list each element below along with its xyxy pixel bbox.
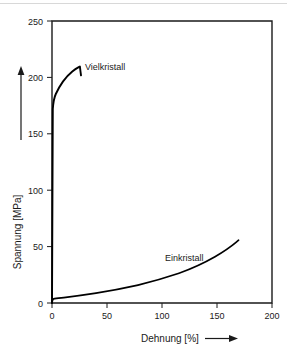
y-tick-label-200: 200 [28, 73, 43, 83]
x-axis-direction-arrow-icon [205, 335, 238, 342]
y-axis-tick-labels: 0 50 100 150 200 250 [28, 17, 43, 309]
y-tick-label-50: 50 [33, 242, 43, 252]
y-axis-title: Spannung [MPa] [12, 195, 23, 270]
y-tick-label-100: 100 [28, 186, 43, 196]
x-axis-ticks [52, 303, 272, 308]
x-tick-label-200: 200 [264, 311, 279, 321]
y-tick-label-0: 0 [38, 299, 43, 309]
x-tick-label-0: 0 [49, 311, 54, 321]
x-axis-title: Dehnung [%] [141, 333, 199, 344]
series-curve-vielkristall [52, 67, 81, 304]
x-tick-label-150: 150 [209, 311, 224, 321]
stress-strain-chart: 0 50 100 150 200 250 0 50 100 150 200 [0, 0, 287, 355]
figure-container: 0 50 100 150 200 250 0 50 100 150 200 [0, 0, 287, 355]
y-tick-label-150: 150 [28, 129, 43, 139]
y-tick-label-250: 250 [28, 17, 43, 27]
x-axis-tick-labels: 0 50 100 150 200 [49, 311, 279, 321]
x-tick-label-100: 100 [154, 311, 169, 321]
series-label-einkristall: Einkristall [165, 253, 204, 263]
x-tick-label-50: 50 [102, 311, 112, 321]
series-label-vielkristall: Vielkristall [85, 62, 125, 72]
series-curve-einkristall [52, 240, 239, 303]
y-axis-direction-arrow-icon [18, 66, 25, 140]
